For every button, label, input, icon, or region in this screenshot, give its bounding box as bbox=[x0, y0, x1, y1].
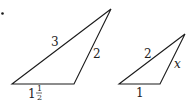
small-triangle-base-label: 1 bbox=[136, 86, 144, 100]
small-triangle-right-side-label: x bbox=[174, 57, 181, 71]
small-triangle: 2 x 1 bbox=[119, 34, 185, 100]
base-fraction-denominator: 2 bbox=[37, 93, 42, 102]
base-whole-number: 1 bbox=[28, 87, 36, 101]
base-fraction-numerator: 1 bbox=[37, 84, 42, 93]
large-triangle-left-side-label: 3 bbox=[51, 35, 59, 49]
large-triangle-right-side-label: 2 bbox=[93, 47, 101, 61]
large-triangle-base-label: 1 1 2 bbox=[28, 84, 42, 102]
large-triangle: 3 2 1 1 2 bbox=[12, 9, 111, 102]
similar-triangles-diagram: 3 2 1 1 2 2 x 1 bbox=[0, 0, 186, 104]
small-triangle-left-side-label: 2 bbox=[144, 47, 152, 61]
bullet-marker bbox=[1, 12, 4, 15]
